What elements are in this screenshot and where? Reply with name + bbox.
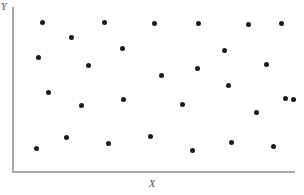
- data-point: [121, 97, 126, 102]
- data-point: [159, 73, 164, 78]
- data-point: [148, 134, 153, 139]
- data-point: [69, 35, 74, 40]
- data-point: [222, 48, 227, 53]
- data-point: [152, 21, 157, 26]
- data-point: [226, 83, 231, 88]
- data-point: [229, 140, 234, 145]
- data-point: [36, 55, 41, 60]
- data-point: [190, 148, 195, 153]
- data-point: [283, 96, 288, 101]
- data-point: [46, 90, 51, 95]
- data-point: [291, 97, 296, 102]
- data-point: [106, 141, 111, 146]
- data-point: [34, 146, 39, 151]
- data-point: [64, 135, 69, 140]
- data-point: [271, 144, 276, 149]
- data-point: [195, 66, 200, 71]
- x-axis-title: X: [0, 178, 304, 190]
- data-point: [40, 20, 45, 25]
- data-point: [254, 110, 259, 115]
- data-point: [196, 21, 201, 26]
- data-point: [180, 102, 185, 107]
- data-point: [79, 103, 84, 108]
- data-point: [279, 21, 284, 26]
- data-point: [264, 62, 269, 67]
- data-point: [86, 63, 91, 68]
- plot-area: [0, 0, 304, 195]
- data-point: [246, 22, 251, 27]
- scatter-chart: Y X: [0, 0, 304, 195]
- data-point: [102, 20, 107, 25]
- data-point: [120, 46, 125, 51]
